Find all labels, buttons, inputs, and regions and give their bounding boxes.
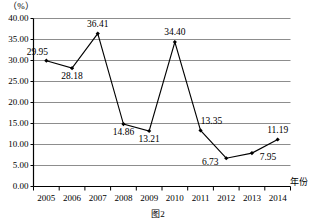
line-chart-plot (0, 0, 316, 218)
y-axis-tick-label: 30.00 (0, 56, 29, 65)
data-point-label: 13.21 (138, 134, 159, 144)
y-axis-tick-label: 10.00 (0, 140, 29, 149)
y-axis-tick-label: 25.00 (0, 77, 29, 86)
y-axis-tick-label: 35.00 (0, 35, 29, 44)
x-axis-tick-label: 2012 (217, 194, 235, 203)
data-point-label: 34.40 (164, 27, 185, 37)
y-axis-tick-label: 0.00 (0, 182, 29, 191)
data-point-label: 7.95 (260, 152, 277, 162)
x-axis-tick-label: 2005 (37, 194, 55, 203)
x-axis-tick-label: 2014 (269, 194, 287, 203)
data-point-label: 29.95 (27, 47, 48, 57)
data-point-label: 14.86 (113, 127, 134, 137)
data-point-label: 13.35 (201, 116, 222, 126)
y-axis-tick-label: 15.00 (0, 119, 29, 128)
x-axis-tick-label: 2006 (63, 194, 81, 203)
y-axis-tick-label: 20.00 (0, 98, 29, 107)
x-axis-tick-label: 2009 (140, 194, 158, 203)
x-axis-tick-label: 2010 (166, 194, 184, 203)
x-axis-tick-label: 2007 (89, 194, 107, 203)
x-axis-ticks (34, 187, 291, 191)
chart-figure: （%） 0.005.0010.0015.0020.0025.0030.0035.… (0, 0, 316, 218)
x-axis-tick-label: 2011 (192, 194, 210, 203)
data-point-label: 36.41 (87, 19, 108, 29)
x-axis-title: 年份 (290, 177, 308, 187)
y-axis-tick-label: 40.00 (0, 14, 29, 23)
data-point-label: 28.18 (61, 71, 82, 81)
y-axis-tick-label: 5.00 (0, 161, 29, 170)
gridlines (34, 19, 291, 187)
figure-caption: 图2 (0, 209, 316, 218)
data-point-markers (44, 31, 280, 160)
data-point-label: 6.73 (202, 157, 219, 167)
data-point-label: 11.19 (267, 125, 288, 135)
x-axis-tick-label: 2008 (114, 194, 132, 203)
x-axis-tick-label: 2013 (243, 194, 261, 203)
data-series-line (46, 34, 277, 159)
